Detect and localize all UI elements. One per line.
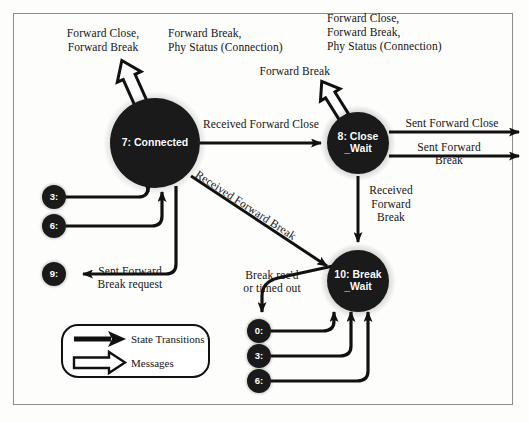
message-label-in-connected: Forward Break, Phy Status (Connection) (168, 26, 348, 54)
state-10-label-line2: _Wait (344, 280, 372, 292)
state-8-label-line1: 8: Close (338, 130, 379, 142)
state-diagram-page: 7: Connected 8: Close_Wait 10: Break_Wai… (0, 0, 529, 422)
transition-label-sent-forward-close: Sent Forward Close (394, 117, 510, 130)
mini-3-bottom-label: 3: (249, 351, 269, 361)
mini-6-left-label: 6: (44, 221, 64, 231)
message-label-out-connected: Forward Close, Forward Break (38, 26, 168, 54)
state-8-label: 8: Close_Wait (318, 130, 398, 154)
legend-label-state-transitions: State Transitions (131, 333, 205, 345)
state-10-label: 10: Break_Wait (318, 268, 398, 292)
legend-label-messages: Messages (131, 357, 174, 369)
message-label-out-closewait: Forward Break (225, 64, 330, 78)
state-7-label: 7: Connected (105, 136, 205, 148)
transition-label-received-forward-close: Received Forward Close (196, 118, 326, 131)
state-10-label-line1: 10: Break (334, 268, 381, 280)
transition-label-sent-forward-break: Sent Forward Break (396, 141, 502, 167)
transition-mini3bottom-to-breakwait (271, 312, 351, 356)
mini-3-left-label: 3: (44, 192, 64, 202)
transition-mini0-to-breakwait (271, 312, 334, 331)
transition-mini6bottom-to-breakwait (271, 312, 368, 381)
mini-9-left-label: 9: (44, 269, 64, 279)
message-label-in-closewait: Forward Close, Forward Break, Phy Status… (327, 11, 517, 53)
transition-label-break-recd-or-timed-out: Break rec'd or timed out (216, 269, 328, 295)
transition-label-received-forward-break-vertical: Received Forward Break (362, 184, 420, 225)
transition-label-sent-forward-break-request: Sent Forward Break request (78, 265, 182, 291)
state-8-label-line2: _Wait (344, 142, 372, 154)
mini-6-bottom-label: 6: (249, 376, 269, 386)
mini-0-bottom-label: 0: (249, 326, 269, 336)
